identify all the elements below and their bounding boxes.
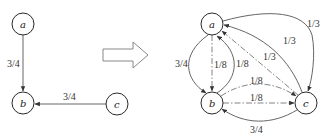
svg-text:c: c [303,98,309,109]
node-left-b: b [12,92,34,114]
edge-label-right-c-b-bottom: 3/4 [250,124,263,135]
svg-text:b: b [209,98,215,109]
left-graph: 3/4 3/4 a b c [7,13,128,115]
node-right-b: b [201,92,223,114]
svg-text:a: a [209,19,215,30]
edge-label-right-c-a-mid: 1/3 [283,35,296,46]
edge-label-right-b-c-straight: 1/8 [250,92,263,103]
edge-label-right-a-c-outer: 1/3 [307,18,320,29]
edge-label-left-a-b: 3/4 [7,58,20,69]
edge-label-right-a-b-curve: 3/4 [175,58,188,69]
transform-arrow-icon [103,42,148,68]
graph-canvas: 3/4 3/4 a b c 3/4 1/8 1/8 1/3 [0,0,326,140]
edge-label-right-b-c-curve: 1/8 [250,75,263,86]
svg-text:b: b [20,98,26,109]
node-right-a: a [201,13,223,35]
edge-right-a-b-curve [189,35,208,93]
edge-label-right-b-a-curve: 1/8 [236,58,249,69]
svg-text:c: c [114,99,120,110]
edge-right-c-b-bottom [222,109,297,121]
edge-label-right-a-b-straight: 1/8 [214,59,227,70]
node-left-a: a [12,13,34,35]
diagram: 3/4 3/4 a b c 3/4 1/8 1/8 1/3 [0,0,326,140]
svg-text:a: a [20,19,26,30]
node-left-c: c [106,93,128,115]
right-graph: 3/4 1/8 1/8 1/3 1/3 1/3 1/8 1/8 3/4 a [175,13,320,135]
edge-label-right-c-a-straight: 1/3 [263,51,276,62]
edge-label-left-c-b: 3/4 [63,91,76,102]
node-right-c: c [295,92,317,114]
